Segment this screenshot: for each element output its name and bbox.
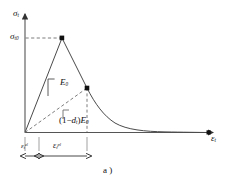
x-axis-label-subscript: t — [215, 137, 216, 143]
elastic-branch — [25, 38, 62, 133]
elastic-modulus-label: E0 — [60, 78, 68, 87]
peak-point-marker — [60, 36, 65, 41]
peak-stress-label: σt0 — [10, 32, 19, 41]
damaged-modulus-label: (1−dt)E0 — [59, 116, 89, 125]
x-axis-label: εt — [211, 134, 216, 143]
elastic-modulus-subscript: 0 — [66, 81, 69, 87]
y-axis-label-subscript: t — [17, 12, 18, 18]
elastic-strain-label: εtel — [21, 143, 28, 150]
elastic-strain-superscript: el — [25, 142, 28, 147]
plot-canvas — [0, 0, 230, 184]
secant-modulus-line — [25, 88, 87, 133]
figure-caption: a ) — [103, 165, 112, 175]
damaged-modulus-e-subscript: 0 — [86, 119, 89, 125]
y-axis-label: σt — [13, 9, 19, 18]
stress-strain-damage-figure: σt σt0 E0 (1−dt)E0 εtel εtpl εt a ) — [0, 0, 230, 184]
damage-point-marker — [85, 86, 90, 91]
plastic-strain-label: εtpl — [53, 142, 61, 150]
slope-triangle-e0 — [48, 79, 55, 96]
peak-stress-subscript: t0 — [14, 35, 18, 41]
plastic-strain-superscript: pl — [57, 142, 61, 147]
